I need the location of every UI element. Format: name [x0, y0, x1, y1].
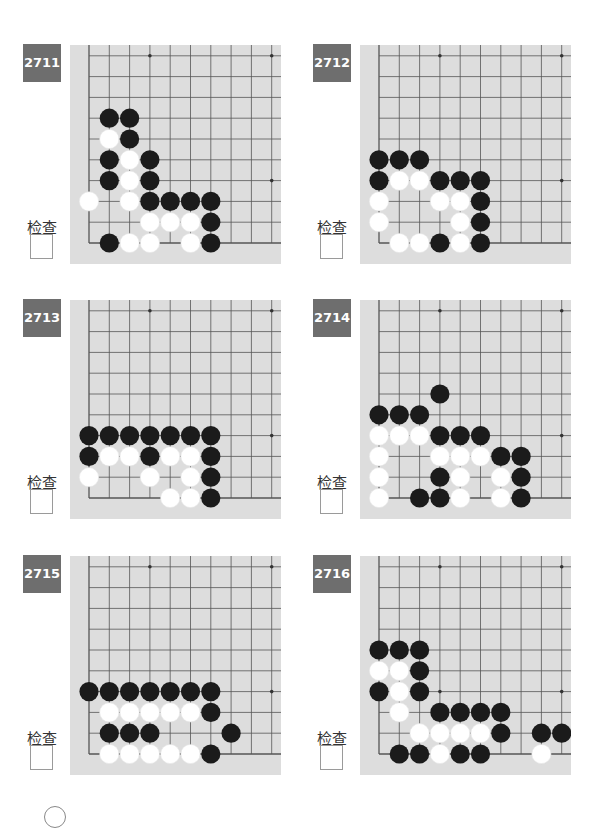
white-stone-icon [451, 213, 470, 232]
white-stone-icon [181, 488, 200, 507]
black-stone-icon [201, 233, 220, 252]
go-board [70, 556, 281, 775]
white-stone-icon [451, 192, 470, 211]
problem-number-label: 2715 [23, 555, 61, 593]
white-stone-icon [390, 171, 409, 190]
black-stone-icon [201, 468, 220, 487]
white-stone-icon [451, 468, 470, 487]
white-stone-icon [120, 447, 139, 466]
white-stone-icon [120, 150, 139, 169]
problem-number-label: 2714 [313, 299, 351, 337]
black-stone-icon [532, 724, 551, 743]
problem-number-label: 2716 [313, 555, 351, 593]
black-stone-icon [161, 426, 180, 445]
white-stone-icon [451, 724, 470, 743]
black-stone-icon [181, 426, 200, 445]
white-stone-icon [140, 703, 159, 722]
black-stone-icon [369, 640, 388, 659]
white-stone-icon [390, 233, 409, 252]
star-point-icon [560, 690, 564, 694]
star-point-icon [148, 565, 152, 569]
black-stone-icon [140, 724, 159, 743]
white-stone-icon [181, 233, 200, 252]
black-stone-icon [100, 233, 119, 252]
black-stone-icon [491, 447, 510, 466]
check-checkbox[interactable] [320, 489, 343, 514]
black-stone-icon [120, 682, 139, 701]
black-stone-icon [471, 233, 490, 252]
black-stone-icon [120, 426, 139, 445]
star-point-icon [560, 179, 564, 183]
white-stone-icon [369, 213, 388, 232]
star-point-icon [560, 434, 564, 438]
check-checkbox[interactable] [30, 234, 53, 259]
black-stone-icon [471, 171, 490, 190]
check-checkbox[interactable] [30, 745, 53, 770]
star-point-icon [560, 565, 564, 569]
black-stone-icon [222, 724, 241, 743]
white-stone-icon [410, 171, 429, 190]
star-point-icon [438, 565, 442, 569]
star-point-icon [438, 309, 442, 313]
black-stone-icon [369, 150, 388, 169]
black-stone-icon [410, 640, 429, 659]
go-board [360, 300, 571, 519]
black-stone-icon [201, 744, 220, 763]
black-stone-icon [430, 468, 449, 487]
white-stone-icon [181, 213, 200, 232]
check-checkbox[interactable] [320, 234, 343, 259]
black-stone-icon [100, 171, 119, 190]
black-stone-icon [410, 661, 429, 680]
black-stone-icon [201, 703, 220, 722]
white-stone-icon [100, 744, 119, 763]
black-stone-icon [120, 109, 139, 128]
black-stone-icon [100, 724, 119, 743]
problem-2715: 2715 检查 [23, 555, 313, 785]
page-marker-circle [44, 806, 66, 828]
black-stone-icon [140, 150, 159, 169]
black-stone-icon [512, 468, 531, 487]
black-stone-icon [201, 447, 220, 466]
black-stone-icon [79, 447, 98, 466]
white-stone-icon [369, 192, 388, 211]
go-board [70, 45, 281, 264]
white-stone-icon [161, 213, 180, 232]
white-stone-icon [430, 447, 449, 466]
white-stone-icon [100, 129, 119, 148]
go-board [70, 300, 281, 519]
white-stone-icon [451, 488, 470, 507]
white-stone-icon [451, 233, 470, 252]
black-stone-icon [512, 447, 531, 466]
black-stone-icon [451, 703, 470, 722]
black-stone-icon [430, 233, 449, 252]
black-stone-icon [451, 744, 470, 763]
go-board [360, 45, 571, 264]
star-point-icon [270, 434, 274, 438]
white-stone-icon [491, 488, 510, 507]
problem-2711: 2711 检查 [23, 44, 313, 274]
black-stone-icon [390, 405, 409, 424]
white-stone-icon [79, 468, 98, 487]
check-checkbox[interactable] [30, 489, 53, 514]
black-stone-icon [100, 109, 119, 128]
black-stone-icon [430, 703, 449, 722]
star-point-icon [270, 179, 274, 183]
board-grid [360, 45, 571, 264]
white-stone-icon [140, 213, 159, 232]
white-stone-icon [181, 703, 200, 722]
black-stone-icon [369, 405, 388, 424]
go-board [360, 556, 571, 775]
white-stone-icon [140, 744, 159, 763]
black-stone-icon [181, 682, 200, 701]
black-stone-icon [79, 682, 98, 701]
white-stone-icon [100, 703, 119, 722]
black-stone-icon [491, 703, 510, 722]
white-stone-icon [390, 703, 409, 722]
problem-number-label: 2713 [23, 299, 61, 337]
black-stone-icon [451, 171, 470, 190]
check-checkbox[interactable] [320, 745, 343, 770]
star-point-icon [560, 309, 564, 313]
black-stone-icon [390, 640, 409, 659]
white-stone-icon [430, 724, 449, 743]
black-stone-icon [430, 384, 449, 403]
